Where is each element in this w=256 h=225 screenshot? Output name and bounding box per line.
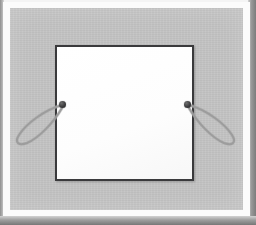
screenshot-canvas: [0, 0, 256, 225]
aperture-inner-surface: [57, 47, 192, 179]
right-mounting-knob-icon: [184, 101, 191, 108]
aperture-square: [55, 45, 194, 181]
bottom-shadow-edge: [0, 216, 256, 225]
left-mounting-knob-icon: [59, 101, 66, 108]
